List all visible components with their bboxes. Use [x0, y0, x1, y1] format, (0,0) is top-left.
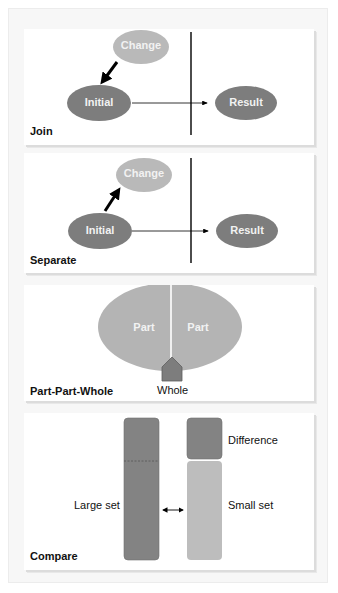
part-left-label: Part: [124, 321, 164, 333]
change-node-label: Change: [116, 167, 172, 179]
panel-title-join: Join: [30, 125, 53, 137]
part-right-label: Part: [178, 321, 218, 333]
difference-box: [187, 418, 222, 459]
panel-compare: Difference Large set Small set Compare: [24, 413, 314, 570]
large-set-label: Large set: [74, 499, 120, 511]
result-node-label: Result: [215, 96, 277, 108]
whole-ellipse: [98, 285, 242, 371]
initial-to-change-arrow: [105, 191, 118, 211]
result-node-label: Result: [216, 224, 278, 236]
small-set-label: Small set: [228, 499, 273, 511]
panel-join: Change Initial Result Join: [24, 29, 314, 145]
initial-node-label: Initial: [67, 96, 131, 108]
panel-part-part-whole: Part Part Whole Part-Part-Whole: [24, 285, 314, 401]
large-set-bar: [124, 418, 159, 560]
small-set-bar: [187, 461, 222, 560]
whole-label: Whole: [157, 384, 188, 396]
change-node-label: Change: [113, 39, 169, 51]
change-to-initial-arrow: [103, 62, 117, 81]
initial-node-label: Initial: [68, 224, 132, 236]
panel-title-part-part-whole: Part-Part-Whole: [30, 385, 113, 397]
panel-title-separate: Separate: [30, 254, 76, 266]
panel-separate: Change Initial Result Separate: [24, 153, 314, 273]
difference-label: Difference: [228, 434, 278, 446]
panel-title-compare: Compare: [30, 550, 78, 562]
join-diagram: [24, 29, 314, 145]
